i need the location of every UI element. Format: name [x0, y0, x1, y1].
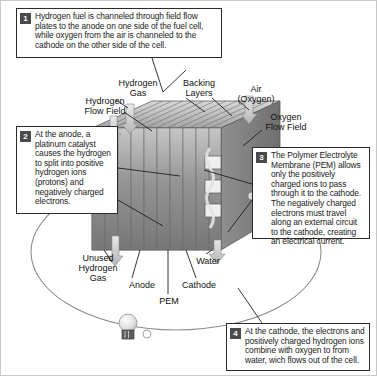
label-anode: Anode [122, 280, 162, 290]
callout-badge-3: 3 [256, 152, 267, 163]
label-oxygen-flow-field: OxygenFlow Field [255, 112, 317, 132]
callout-badge-1: 1 [20, 13, 31, 24]
label-backing-layers: BackingLayers [172, 78, 226, 98]
callout-box-2: 2 At the anode, a platinum catalyst caus… [16, 126, 118, 214]
callout-text-2: At the anode, a platinum catalyst causes… [35, 130, 113, 207]
lightbulb-icon [119, 314, 151, 339]
label-hydrogen-gas: HydrogenGas [110, 78, 166, 98]
label-air-oxygen: Air(Oxygen) [231, 84, 281, 104]
callout-badge-2: 2 [20, 131, 31, 142]
callout-box-4: 4 At the cathode, the electrons and posi… [226, 323, 370, 371]
callout-text-1: Hydrogen fuel is channeled through field… [35, 12, 217, 50]
callout-text-4: At the cathode, the electrons and positi… [245, 327, 365, 365]
label-unused-hydrogen-gas: UnusedHydrogenGas [72, 253, 124, 283]
label-cathode: Cathode [175, 280, 223, 290]
callout-badge-4: 4 [230, 328, 241, 339]
callout-box-1: 1 Hydrogen fuel is channeled through fie… [16, 8, 222, 58]
label-water: Water [186, 256, 230, 266]
callout-text-3: The Polymer Electrolyte Membrane (PEM) a… [271, 151, 365, 247]
label-pem: PEM [152, 296, 186, 306]
label-hydrogen-flow-field: HydrogenFlow Field [68, 96, 142, 116]
callout-box-3: 3 The Polymer Electrolyte Membrane (PEM)… [252, 147, 370, 239]
